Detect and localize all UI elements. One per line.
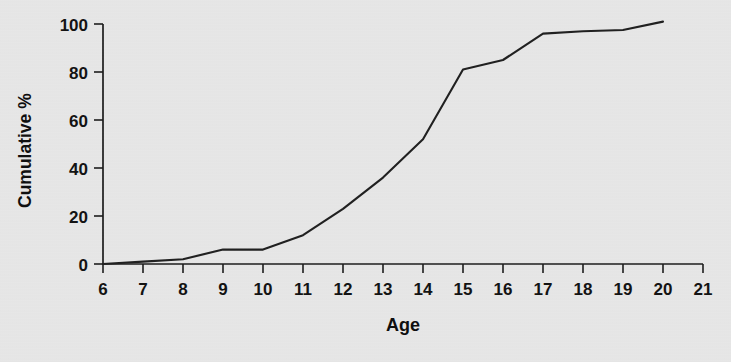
y-tick-label-20: 20 [69, 208, 88, 227]
y-tick-label-0: 0 [79, 256, 88, 275]
y-tick-label-40: 40 [69, 160, 88, 179]
y-tick-label-100: 100 [60, 16, 88, 35]
x-tick-label-14: 14 [414, 280, 433, 299]
y-axis-title: Cumulative % [15, 93, 35, 208]
x-tick-label-20: 20 [654, 280, 673, 299]
x-tick-label-12: 12 [334, 280, 353, 299]
y-tick-label-60: 60 [69, 112, 88, 131]
x-axis-tick-labels: 6 7 8 9 10 11 12 13 14 15 16 17 18 19 20… [98, 280, 712, 299]
x-tick-label-8: 8 [178, 280, 187, 299]
chart-figure: 100 80 60 40 20 0 Cumulative % [0, 0, 731, 362]
x-tick-label-11: 11 [294, 280, 312, 299]
y-axis-ticks [94, 24, 103, 264]
x-tick-label-18: 18 [574, 280, 593, 299]
y-axis: 100 80 60 40 20 0 Cumulative % [15, 16, 103, 275]
x-tick-label-19: 19 [614, 280, 633, 299]
x-axis-ticks [103, 264, 703, 273]
x-tick-label-16: 16 [494, 280, 513, 299]
x-tick-label-6: 6 [98, 280, 107, 299]
x-tick-label-7: 7 [138, 280, 147, 299]
x-tick-label-17: 17 [534, 280, 553, 299]
x-tick-label-10: 10 [254, 280, 273, 299]
x-axis: 6 7 8 9 10 11 12 13 14 15 16 17 18 19 20… [98, 264, 712, 335]
cumulative-series-line [103, 22, 663, 264]
x-tick-label-21: 21 [694, 280, 713, 299]
x-axis-title: Age [386, 315, 420, 335]
y-axis-tick-labels: 100 80 60 40 20 0 [60, 16, 88, 275]
x-tick-label-15: 15 [454, 280, 473, 299]
x-tick-label-13: 13 [374, 280, 393, 299]
x-tick-label-9: 9 [218, 280, 227, 299]
y-tick-label-80: 80 [69, 64, 88, 83]
cumulative-percent-line-chart: 100 80 60 40 20 0 Cumulative % [0, 0, 731, 362]
